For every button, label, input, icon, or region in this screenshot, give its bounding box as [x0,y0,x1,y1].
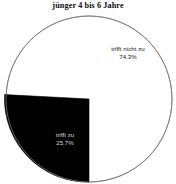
slice-value-text: 25,7% [32,139,98,147]
slice-label-text: trifft zu [56,131,75,138]
pie-plot-area: trifft nicht zu 74,3% trifft zu 25,7% [0,0,176,184]
slice-label-trifft-zu: trifft zu 25,7% [32,131,98,146]
pie-svg [0,0,176,184]
slice-label-trifft-nicht-zu: trifft nicht zu 74,3% [92,45,164,60]
slice-label-text: trifft nicht zu [111,45,145,52]
pie-chart-figure: jünger 4 bis 6 Jahre trifft nicht zu 74,… [0,0,176,184]
slice-value-text: 74,3% [92,53,164,61]
